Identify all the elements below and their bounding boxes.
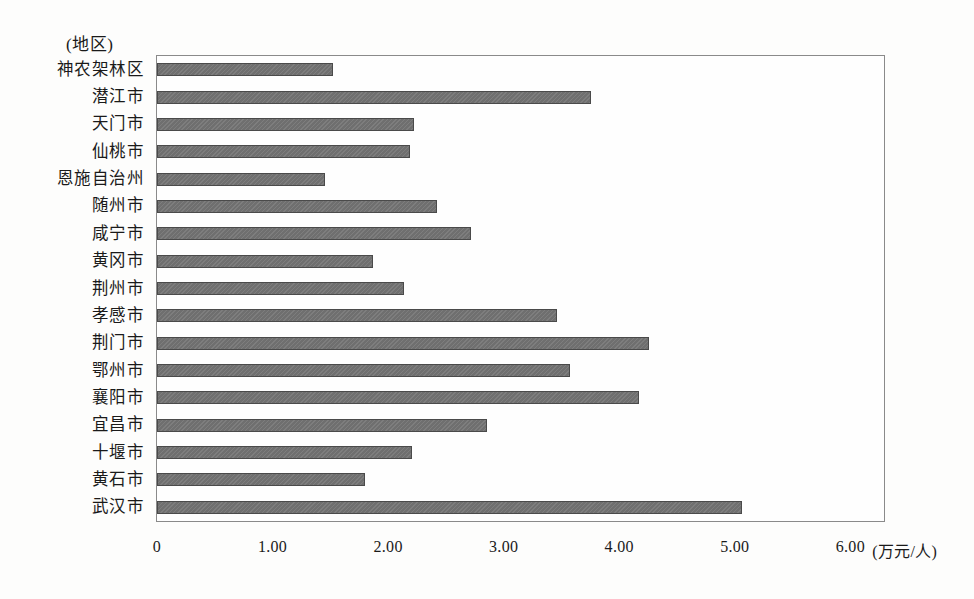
bar bbox=[157, 446, 412, 459]
y-axis-tick-label: 宜昌市 bbox=[92, 417, 145, 434]
bar-chart: (地区) 神农架林区潜江市天门市仙桃市恩施自治州随州市咸宁市黄冈市荆州市孝感市荆… bbox=[0, 0, 974, 599]
y-axis-tick-labels: 神农架林区潜江市天门市仙桃市恩施自治州随州市咸宁市黄冈市荆州市孝感市荆门市鄂州市… bbox=[0, 56, 150, 521]
bar bbox=[157, 173, 325, 186]
bar bbox=[157, 501, 742, 514]
y-axis-tick-label: 随州市 bbox=[92, 198, 145, 215]
x-axis-tick-label: 1.00 bbox=[258, 538, 287, 556]
y-axis-tick-label: 咸宁市 bbox=[92, 226, 145, 243]
bar bbox=[157, 309, 557, 322]
y-axis-tick-label: 荆州市 bbox=[92, 281, 145, 298]
bars-container bbox=[157, 56, 885, 521]
bar bbox=[157, 63, 333, 76]
bar bbox=[157, 419, 487, 432]
x-axis-tick-labels: 01.002.003.004.005.006.00(万元/人) bbox=[0, 522, 974, 562]
x-axis-tick-label: 5.00 bbox=[720, 538, 749, 556]
x-axis-tick-label: 3.00 bbox=[489, 538, 518, 556]
y-axis-tick-label: 荆门市 bbox=[92, 335, 145, 352]
bar bbox=[157, 391, 639, 404]
bar bbox=[157, 227, 471, 240]
bar bbox=[157, 91, 591, 104]
x-axis-tick-label: 0 bbox=[153, 538, 161, 556]
y-axis-tick-label: 十堰市 bbox=[92, 445, 145, 462]
y-axis-tick-label: 潜江市 bbox=[92, 89, 145, 106]
y-axis-tick-label: 黄冈市 bbox=[92, 253, 145, 270]
y-axis-tick-label: 神农架林区 bbox=[57, 62, 145, 79]
x-axis-unit-label: (万元/人) bbox=[872, 538, 937, 562]
x-axis-tick-label: 2.00 bbox=[374, 538, 403, 556]
y-axis-tick-label: 黄石市 bbox=[92, 472, 145, 489]
bar bbox=[157, 473, 365, 486]
y-axis-tick-label: 鄂州市 bbox=[92, 363, 145, 380]
x-axis-tick-label: 6.00 bbox=[836, 538, 865, 556]
bar bbox=[157, 364, 570, 377]
y-axis-tick-label: 襄阳市 bbox=[92, 390, 145, 407]
bar bbox=[157, 255, 373, 268]
bar bbox=[157, 118, 414, 131]
y-axis-tick-label: 恩施自治州 bbox=[57, 171, 145, 188]
y-axis-tick-label: 孝感市 bbox=[92, 308, 145, 325]
bar bbox=[157, 145, 410, 158]
bar bbox=[157, 282, 404, 295]
bar bbox=[157, 337, 649, 350]
bar bbox=[157, 200, 437, 213]
y-axis-tick-label: 天门市 bbox=[92, 116, 145, 133]
y-axis-caption: (地区) bbox=[66, 30, 113, 55]
x-axis-tick-label: 4.00 bbox=[605, 538, 634, 556]
y-axis-tick-label: 仙桃市 bbox=[92, 144, 145, 161]
y-axis-tick-label: 武汉市 bbox=[92, 499, 145, 516]
